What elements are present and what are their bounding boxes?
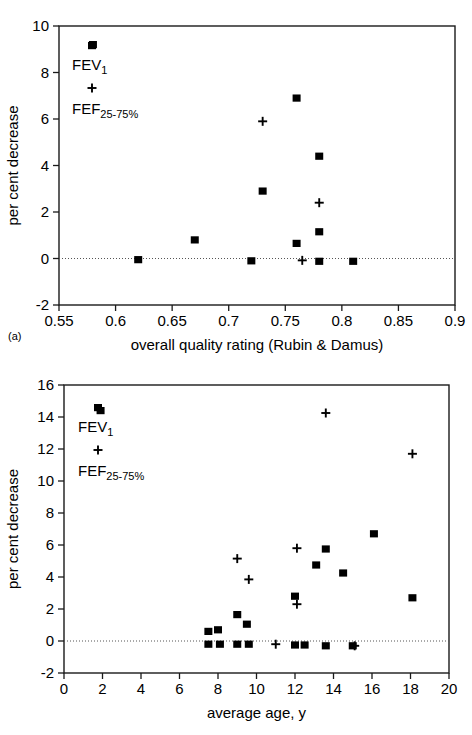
y-axis-tick-label: 6 — [41, 110, 49, 127]
y-axis-tick-label: 10 — [37, 472, 54, 489]
data-point-square — [247, 257, 255, 264]
data-point-square — [370, 530, 378, 537]
data-point-square — [216, 641, 224, 648]
data-point-square — [204, 641, 212, 648]
chart-panel-a: 0.550.60.650.70.750.80.850.9-20246810ove… — [0, 0, 472, 368]
data-point-square — [291, 593, 299, 600]
scatter-plot-b: 02468101214161820-20246810121416average … — [0, 360, 472, 735]
x-axis-tick-label: 0.7 — [218, 312, 239, 329]
x-axis-tick-label: 20 — [441, 680, 458, 697]
data-point-square — [301, 641, 309, 648]
data-point-square — [233, 611, 241, 618]
y-axis-tick-label: 10 — [32, 17, 49, 34]
y-axis-title: per cent decrease — [4, 105, 21, 225]
data-point-square — [322, 545, 330, 552]
chart-legend: FEV1FEF25-75% — [78, 404, 144, 482]
data-series-fev1 — [89, 41, 357, 265]
data-point-square — [214, 626, 222, 633]
legend-label-fef2575: FEF25-75% — [78, 462, 144, 482]
data-point-square — [233, 641, 241, 648]
data-series-fev1 — [97, 407, 417, 649]
chart-panel-b: 02468101214161820-20246810121416average … — [0, 360, 472, 735]
x-axis-tick-label: 0.85 — [384, 312, 413, 329]
data-point-square — [191, 236, 199, 243]
y-axis-tick-label: 8 — [46, 504, 54, 521]
y-axis-tick-label: 0 — [46, 632, 54, 649]
data-series-fef2575 — [233, 409, 417, 651]
x-axis-tick-label: 4 — [137, 680, 145, 697]
x-axis-tick-label: 16 — [364, 680, 381, 697]
x-axis-tick-label: 0.65 — [158, 312, 187, 329]
data-series-fef2575 — [258, 117, 324, 265]
y-axis-tick-label: 16 — [37, 376, 54, 393]
x-axis-tick-label: 0.6 — [105, 312, 126, 329]
y-axis-tick-label: -2 — [41, 664, 54, 681]
y-axis-tick-label: -2 — [36, 296, 49, 313]
x-axis-tick-label: 2 — [98, 680, 106, 697]
data-point-square — [293, 94, 301, 101]
data-point-square — [293, 240, 301, 247]
legend-marker-square — [88, 42, 96, 49]
x-axis-tick-label: 0.8 — [331, 312, 352, 329]
panel-label-a: (a) — [8, 330, 21, 342]
data-point-square — [291, 641, 299, 648]
data-point-square — [315, 258, 323, 265]
data-point-square — [322, 642, 330, 649]
x-axis-tick-label: 14 — [325, 680, 342, 697]
y-axis-tick-label: 4 — [41, 157, 49, 174]
y-axis-tick-label: 8 — [41, 64, 49, 81]
data-point-square — [312, 561, 320, 568]
x-axis-tick-label: 18 — [402, 680, 419, 697]
data-point-square — [315, 228, 323, 235]
data-point-square — [349, 258, 357, 265]
data-point-square — [259, 187, 267, 194]
y-axis-tick-label: 6 — [46, 536, 54, 553]
data-point-square — [339, 569, 347, 576]
x-axis-tick-label: 10 — [248, 680, 265, 697]
legend-marker-square — [94, 404, 102, 411]
plot-frame — [59, 26, 455, 305]
y-axis-tick-label: 2 — [41, 203, 49, 220]
x-axis-tick-label: 8 — [214, 680, 222, 697]
data-point-square — [204, 628, 212, 635]
y-axis-tick-label: 12 — [37, 440, 54, 457]
y-axis-title: per cent decrease — [4, 469, 21, 589]
x-axis-tick-label: 0.55 — [44, 312, 73, 329]
x-axis-title: average age, y — [207, 704, 307, 721]
chart-legend: FEV1FEF25-75% — [72, 42, 138, 120]
y-axis-tick-label: 4 — [46, 568, 54, 585]
y-axis-tick-label: 0 — [41, 250, 49, 267]
figure-container: 0.550.60.650.70.750.80.850.9-20246810ove… — [0, 0, 472, 735]
x-axis-tick-label: 6 — [175, 680, 183, 697]
x-axis-tick-label: 0.9 — [445, 312, 466, 329]
data-point-square — [245, 641, 253, 648]
legend-label-fev1: FEV1 — [72, 56, 107, 76]
legend-label-fev1: FEV1 — [78, 418, 113, 438]
x-axis-tick-label: 0.75 — [271, 312, 300, 329]
legend-label-fef2575: FEF25-75% — [72, 100, 138, 120]
x-axis-tick-label: 12 — [287, 680, 304, 697]
data-point-square — [315, 153, 323, 160]
data-point-square — [243, 621, 251, 628]
x-axis-tick-label: 0 — [60, 680, 68, 697]
scatter-plot-a: 0.550.60.650.70.750.80.850.9-20246810ove… — [0, 0, 472, 368]
y-axis-tick-label: 14 — [37, 408, 54, 425]
y-axis-tick-label: 2 — [46, 600, 54, 617]
data-point-square — [134, 256, 142, 263]
data-point-square — [408, 594, 416, 601]
plot-frame — [64, 385, 449, 673]
x-axis-title: overall quality rating (Rubin & Damus) — [131, 336, 384, 353]
